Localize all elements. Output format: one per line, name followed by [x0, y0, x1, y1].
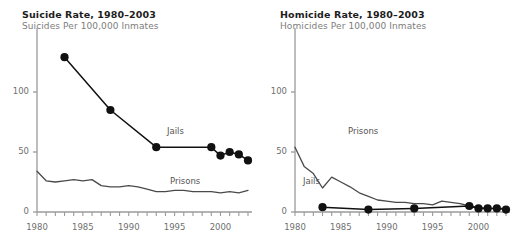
- data-point-marker: [226, 148, 234, 156]
- series-label-prisons: Prisons: [348, 126, 378, 136]
- x-axis-tick-label: 1980: [275, 222, 315, 232]
- data-point-marker: [318, 203, 326, 211]
- data-point-marker: [502, 206, 510, 214]
- data-point-marker: [216, 152, 224, 160]
- y-axis-tick-label: 100: [3, 86, 29, 96]
- x-axis-tick-label: 1995: [155, 222, 195, 232]
- y-axis-tick-label: 0: [261, 206, 287, 216]
- x-axis-tick-label: 1990: [367, 222, 407, 232]
- data-point-marker: [364, 206, 372, 214]
- data-point-marker: [465, 202, 473, 210]
- x-axis-tick-label: 1980: [17, 222, 57, 232]
- figure-container: Suicide Rate, 1980–2003 Suicides Per 100…: [0, 0, 516, 247]
- series-label-prisons: Prisons: [170, 176, 200, 186]
- y-axis-tick-label: 0: [3, 206, 29, 216]
- y-axis-tick-label: 50: [3, 146, 29, 156]
- y-axis-tick-label: 50: [261, 146, 287, 156]
- data-point-marker: [60, 53, 68, 61]
- chart-svg: [0, 0, 258, 247]
- chart-panel-homicide-rate: Homicide Rate, 1980–2003 Homicides Per 1…: [258, 0, 516, 247]
- x-axis-tick-label: 1985: [321, 222, 361, 232]
- chart-panel-suicide-rate: Suicide Rate, 1980–2003 Suicides Per 100…: [0, 0, 258, 247]
- data-point-marker: [235, 150, 243, 158]
- y-axis-tick-label: 100: [261, 86, 287, 96]
- data-point-marker: [493, 204, 501, 212]
- data-point-marker: [484, 204, 492, 212]
- data-point-marker: [474, 204, 482, 212]
- x-axis-tick-label: 1985: [63, 222, 103, 232]
- data-point-marker: [106, 106, 114, 114]
- data-point-marker: [207, 143, 215, 151]
- series-label-jails: Jails: [167, 126, 184, 136]
- series-line-prisons: [37, 171, 248, 193]
- chart-svg: [258, 0, 516, 247]
- x-axis-tick-label: 1990: [109, 222, 149, 232]
- series-label-jails: Jails: [303, 176, 320, 186]
- series-line-prisons: [295, 147, 506, 208]
- x-axis-tick-label: 2000: [458, 222, 498, 232]
- data-point-marker: [244, 156, 252, 164]
- data-point-marker: [410, 204, 418, 212]
- plot-area: 05010019801985199019952000PrisonsJails: [258, 0, 516, 247]
- data-point-marker: [152, 143, 160, 151]
- x-axis-tick-label: 1995: [413, 222, 453, 232]
- plot-area: 05010019801985199019952000JailsPrisons: [0, 0, 258, 247]
- x-axis-tick-label: 2000: [200, 222, 240, 232]
